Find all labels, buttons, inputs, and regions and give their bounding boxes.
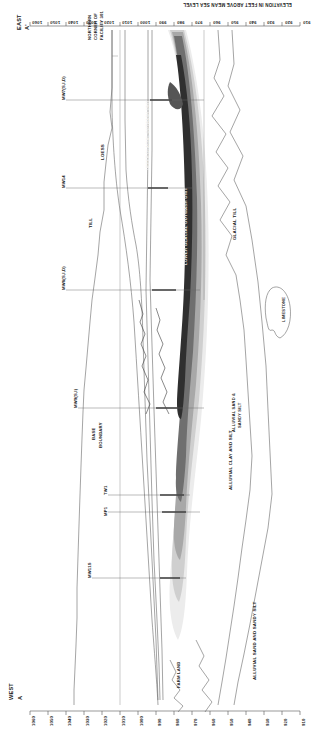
base-boundary-line-2: BOUNDARY [99,422,104,448]
tick-label-top: 1060 [32,19,42,24]
west-end-id: A [17,696,23,700]
unit-label-lower-outwash: LOWER GLACIAL OUTWASH UNIT [183,188,188,265]
tick-label-top: 950 [231,19,239,24]
unit-label-alluvial-clay-silt: ALLUVIAL CLAY AND SILT [228,430,233,490]
well-label-mw11s: MW11S [88,562,93,578]
unit-label-loess: LOESS [100,144,105,160]
unit-label-glacial-till: GLACIAL TILL [232,208,237,240]
unit-label-till: TILL [88,218,93,228]
tick-label-bottom: 1000 [140,716,145,726]
tick-label-top: 1050 [50,19,60,24]
west-end-label: WEST [8,683,14,700]
tick-label-top: 940 [249,19,257,24]
cross-section-figure: ELEVATION IN FEET ABOVE MEAN SEA LEVEL [0,0,316,737]
tick-label-top: 1010 [122,19,132,24]
tick-label-bottom: 1060 [32,716,37,726]
east-end-id: A' [24,24,30,30]
tick-label-top: 920 [285,19,293,24]
unit-label-alluvial-sand-sandy-silt: ALLUVIAL SAND AND SANDY SILT [252,602,257,680]
unit-label-alluvial-sand-silt-line1: ALLUVIAL SAND & [232,393,237,432]
tick-label-top: 930 [267,19,275,24]
tick-label-bottom: 1040 [68,716,73,726]
well-label-mw9: MW9(S,I) [74,389,79,408]
contaminant-plume [168,30,209,640]
base-boundary-line-1: BASE [92,428,97,440]
unit-label-alluvial-sand-silt-line2: SANDY SILT [238,403,243,428]
site-note-line-3: FACILITY 301 [100,11,105,40]
tick-label-bottom: 990 [158,718,163,726]
tick-label-top: 1040 [68,19,78,24]
well-label-mw8: MW8(S,I,D) [62,266,67,290]
tick-label-bottom: 950 [230,718,235,726]
land-use-label: FARM LAND [177,662,182,688]
tick-label-top: 970 [195,19,203,24]
tick-label-bottom: 910 [302,718,307,726]
tick-label-bottom: 1010 [122,716,127,726]
axis-bottom [30,711,300,715]
tick-label-bottom: 940 [248,718,253,726]
tick-label-top: 910 [303,19,311,24]
tick-label-bottom: 970 [194,718,199,726]
tick-label-top: 1000 [140,19,150,24]
tick-label-bottom: 960 [212,718,217,726]
tick-label-bottom: 1030 [86,716,91,726]
well-label-mp1: MP1 [104,507,109,516]
tick-label-bottom: 1020 [104,716,109,726]
tick-label-bottom: 930 [266,718,271,726]
well-label-mw7: MW7(S,I,D) [62,76,67,100]
tick-label-top: 1020 [104,19,114,24]
tick-label-bottom: 920 [284,718,289,726]
well-label-tw1: TW1 [104,486,109,495]
tick-label-top: 960 [213,19,221,24]
tick-label-top: 990 [159,19,167,24]
tick-label-top: 980 [177,19,185,24]
cross-section-canvas [0,0,316,737]
tick-label-bottom: 980 [176,718,181,726]
unit-label-upper-outwash: UPPER GLACIAL OUTWASH UNIT [146,100,151,170]
tick-label-bottom: 1050 [50,716,55,726]
unit-label-limestone: LIMESTONE [282,297,287,322]
east-end-label: EAST [16,14,22,30]
well-label-mw14: MW14 [62,175,67,188]
